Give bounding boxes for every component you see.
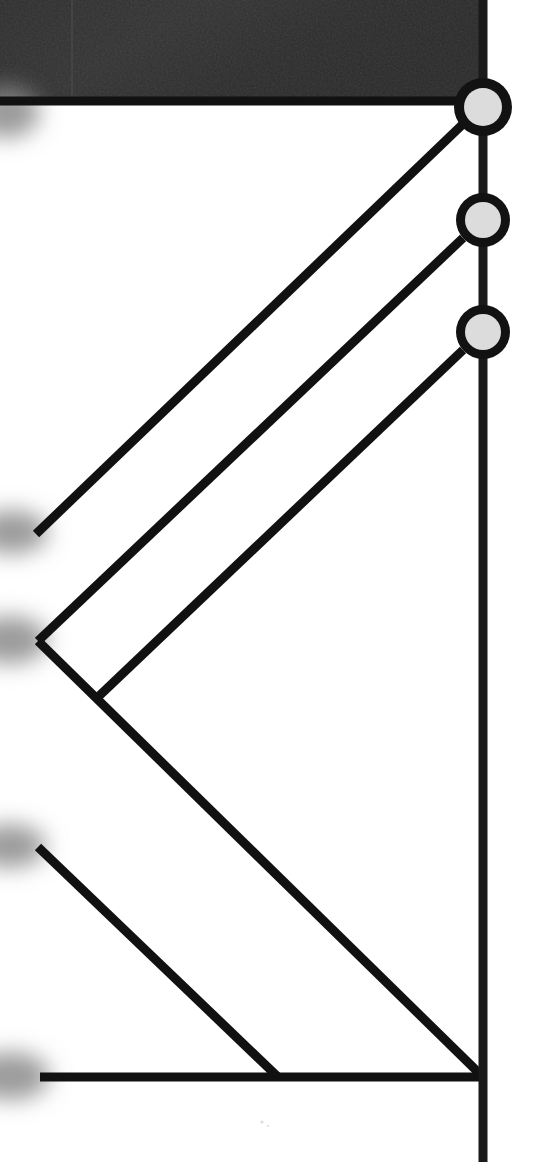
joint-1[interactable] <box>454 78 512 136</box>
joint-3[interactable] <box>456 305 510 359</box>
background <box>0 0 545 1162</box>
joint-2-fill <box>465 202 501 238</box>
dark-textured-block <box>0 0 483 104</box>
joint-1-fill <box>464 88 502 126</box>
joint-3-fill <box>465 314 501 350</box>
joint-2[interactable] <box>456 193 510 247</box>
pin-joints <box>454 78 512 359</box>
truss-diagram <box>0 0 545 1162</box>
diagram-canvas <box>0 0 545 1162</box>
